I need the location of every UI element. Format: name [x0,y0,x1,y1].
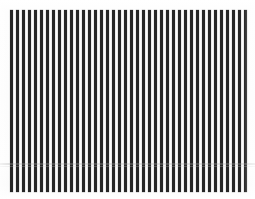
stripe-bar [226,10,229,192]
stripe-bar [136,10,139,192]
stripe-bar [40,10,43,192]
stripe-bar [112,10,115,192]
stripe-bar [154,10,157,192]
stripe-bar [94,10,97,192]
stripe-bar [178,10,181,192]
stripe-bar [166,10,169,192]
stripe-bar [214,10,217,192]
stripe-bar [148,10,151,192]
stripe-bar [118,10,121,192]
stripe-bar [58,10,61,192]
stripe-bar [232,10,235,192]
stripe-bar [46,10,49,192]
stripe-bar [106,10,109,192]
stripe-bar [64,10,67,192]
stripe-bar [244,10,247,192]
stripe-field [10,10,242,192]
stripe-bar [172,10,175,192]
stripe-bar [70,10,73,192]
stripe-bar [100,10,103,192]
stripe-bar [196,10,199,192]
stripe-bar [16,10,19,192]
stripe-bar [202,10,205,192]
stripe-bar [34,10,37,192]
stripe-bar [28,10,31,192]
stripe-bar [52,10,55,192]
stripe-bar [208,10,211,192]
stripe-bar [238,10,241,192]
stripe-bar [124,10,127,192]
stripe-bar [160,10,163,192]
stripe-bar [184,10,187,192]
stripe-bar [10,10,13,192]
stripe-bar [190,10,193,192]
stripe-bar [130,10,133,192]
stripe-bar [220,10,223,192]
stripe-pattern-canvas [0,0,255,199]
stripe-bar [82,10,85,192]
stripe-bar [76,10,79,192]
stripe-bar [88,10,91,192]
stripe-bar [22,10,25,192]
stripe-bar [142,10,145,192]
